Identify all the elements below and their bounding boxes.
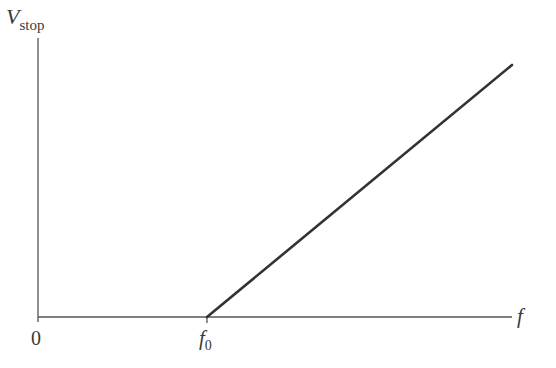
- f0-tick-label: f0: [199, 326, 212, 354]
- data-line: [207, 65, 512, 317]
- y-axis-label: Vstop: [6, 4, 44, 34]
- chart-canvas: [0, 0, 556, 368]
- x-axis-label: f: [517, 304, 523, 329]
- origin-tick-label: 0: [31, 327, 41, 350]
